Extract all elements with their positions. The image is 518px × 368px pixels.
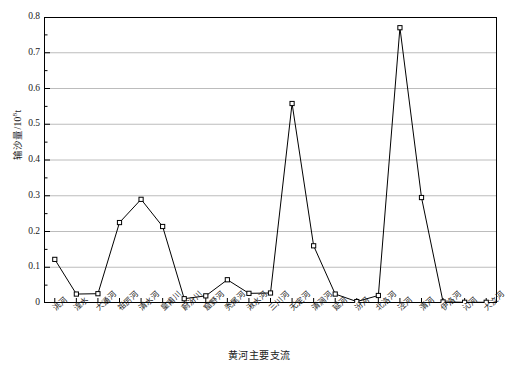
x-axis-tick-label: 沁河 (462, 296, 479, 313)
x-axis-tick-label: 延河 (332, 296, 349, 313)
x-axis-tick-label: 皇甫川 (160, 290, 183, 313)
x-axis-tick-label: 北洛河 (375, 290, 398, 313)
x-axis-tick-label: 祖厉河 (117, 290, 140, 313)
x-axis-title: 黄河主要支流 (0, 347, 518, 362)
chart-container: 输沙量/108t 00.10.20.30.40.50.60.70.8 洮河湟水大… (0, 0, 518, 368)
x-axis-tick-label: 清水河 (138, 290, 161, 313)
x-axis-tick-label: 无定河 (289, 290, 312, 313)
x-axis-tick-label: 洮河 (52, 296, 69, 313)
x-axis-tick-label: 湟水 (73, 296, 90, 313)
x-axis-tick-label: 汾河 (354, 296, 371, 313)
x-axis-tick-label: 伊洛河 (440, 290, 463, 313)
x-axis-tick-label-group: 洮河湟水大通河祖厉河清水河皇甫川蔚汾川窟野河秃尾河湫水河三川河无定河清涧河延河汾… (0, 0, 518, 368)
x-axis-tick-label: 清涧河 (311, 290, 334, 313)
x-axis-tick-label: 大汶河 (483, 290, 506, 313)
x-axis-tick-label: 渭河 (419, 296, 436, 313)
x-axis-tick-label: 大通河 (95, 290, 118, 313)
x-axis-tick-label: 三川河 (268, 290, 291, 313)
x-axis-tick-label: 泾河 (397, 296, 414, 313)
x-axis-tick-label: 秃尾河 (224, 290, 247, 313)
x-axis-tick-label: 蔚汾川 (181, 290, 204, 313)
x-axis-tick-label: 窟野河 (203, 290, 226, 313)
x-axis-tick-label: 湫水河 (246, 290, 269, 313)
